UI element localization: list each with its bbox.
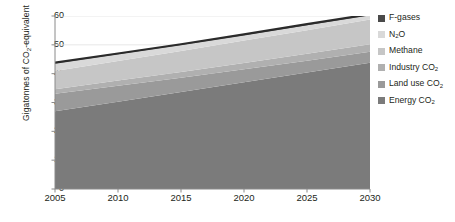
legend-item-label: Industry CO2: [389, 63, 438, 72]
area-bands: [55, 16, 370, 189]
legend-item-label: F-gases: [389, 13, 420, 22]
legend-swatch-icon: [378, 64, 385, 71]
chart-legend: F-gasesN2OMethaneIndustry CO2Land use CO…: [378, 13, 455, 113]
x-tick-label: 2005: [35, 193, 75, 203]
x-tick-label: 2030: [350, 193, 390, 203]
chart-figure: Gigatonnes of CO2-equivalent 01020304050…: [0, 0, 455, 222]
x-tick-label: 2025: [287, 193, 327, 203]
x-tick-label: 2010: [98, 193, 138, 203]
y-axis-title: Gigatonnes of CO2-equivalent: [21, 0, 31, 133]
legend-swatch-icon: [378, 81, 385, 88]
legend-item-n2o[interactable]: N2O: [378, 30, 455, 47]
legend-swatch-icon: [378, 97, 385, 104]
y-axis-title-sub: 2: [25, 48, 32, 52]
stacked-area-plot: [55, 16, 370, 189]
legend-item-industry-co2[interactable]: Industry CO2: [378, 63, 455, 80]
legend-item-land-use-co2[interactable]: Land use CO2: [378, 79, 455, 96]
legend-item-label: Land use CO2: [389, 79, 443, 88]
plot-area: [55, 16, 370, 189]
y-axis-title-pre: Gigatonnes of CO: [21, 51, 31, 121]
legend-item-label: Energy CO2: [389, 96, 435, 105]
legend-item-label: Methane: [389, 46, 422, 55]
y-axis-title-post: -equivalent: [21, 5, 31, 48]
legend-item-methane[interactable]: Methane: [378, 46, 455, 63]
legend-swatch-icon: [378, 31, 385, 38]
x-tick-label: 2020: [224, 193, 264, 203]
legend-item-f-gases[interactable]: F-gases: [378, 13, 455, 30]
legend-swatch-icon: [378, 15, 385, 22]
legend-swatch-icon: [378, 48, 385, 55]
x-tick-label: 2015: [161, 193, 201, 203]
legend-item-energy-co2[interactable]: Energy CO2: [378, 96, 455, 113]
legend-item-label: N2O: [389, 30, 405, 39]
